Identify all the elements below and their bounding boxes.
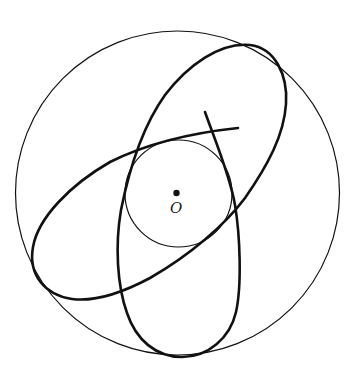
center-point-o [173, 190, 179, 196]
orbit-diagram [0, 0, 351, 372]
center-label-o: O [170, 201, 182, 216]
orbit-curve [32, 45, 286, 357]
